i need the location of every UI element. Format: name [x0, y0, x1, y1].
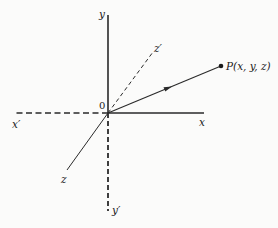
- z-prime-axis-label: z′: [153, 42, 163, 54]
- point-p-label: P(x, y, z): [225, 60, 271, 72]
- z-axis: [67, 113, 108, 170]
- y-axis-label: y: [98, 8, 106, 20]
- origin-label: 0: [99, 100, 105, 111]
- x-prime-axis-label: x′: [12, 118, 21, 130]
- y-prime-axis-label: y′: [111, 204, 121, 216]
- arrowhead-icon: [164, 86, 173, 91]
- z-axis-label: z: [60, 173, 67, 185]
- coordinate-diagram: y y′ x x′ z′ z 0 P(x, y, z): [0, 0, 278, 228]
- point-p-marker: [219, 64, 224, 69]
- diagram-canvas: y y′ x x′ z′ z 0 P(x, y, z): [0, 0, 278, 228]
- x-axis-label: x: [199, 116, 205, 128]
